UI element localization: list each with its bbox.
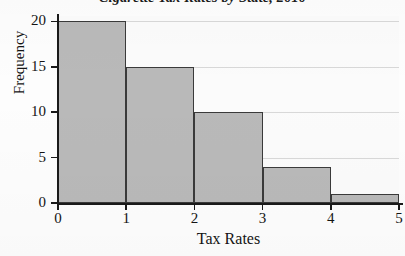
x-axis-title: Tax Rates (58, 230, 399, 248)
y-axis-tick-mark (51, 157, 58, 159)
histogram-figure: Cigarette Tax Rates by State, 2010 Frequ… (0, 0, 405, 256)
y-axis-tick-label: 0 (6, 194, 46, 211)
histogram-bar (331, 194, 399, 203)
y-axis-tick-label: 5 (6, 149, 46, 166)
histogram-bar (263, 167, 331, 203)
x-axis-tick-label: 3 (248, 210, 278, 227)
histogram-bar (194, 112, 262, 203)
x-axis-tick-label: 0 (43, 210, 73, 227)
y-axis-tick-label: 20 (6, 12, 46, 29)
y-axis-tick-mark (51, 21, 58, 23)
x-axis-tick-label: 5 (384, 210, 405, 227)
x-axis-tick-mark (57, 203, 59, 210)
x-axis-tick-label: 1 (111, 210, 141, 227)
x-axis-tick-mark (125, 203, 127, 210)
x-axis-tick-mark (262, 203, 264, 210)
histogram-bar (58, 21, 126, 203)
chart-title: Cigarette Tax Rates by State, 2010 (0, 0, 405, 6)
x-axis-line (57, 203, 403, 205)
y-axis-tick-label: 15 (6, 58, 46, 75)
x-axis-tick-mark (330, 203, 332, 210)
y-axis-tick-mark (51, 66, 58, 68)
x-axis-tick-mark (398, 203, 400, 210)
y-axis-tick-mark (51, 111, 58, 113)
y-axis-tick-label: 10 (6, 103, 46, 120)
y-axis-line (57, 14, 59, 205)
x-axis-tick-label: 2 (179, 210, 209, 227)
x-axis-tick-label: 4 (316, 210, 346, 227)
plot-area (58, 16, 399, 203)
histogram-bar (126, 67, 194, 203)
x-axis-tick-mark (194, 203, 196, 210)
